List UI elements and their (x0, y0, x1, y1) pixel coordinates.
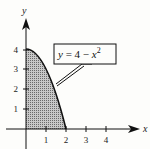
equation-label: y = 4 − x2 (57, 46, 101, 60)
x-tick-label: 2 (64, 135, 69, 145)
x-tick-label: 3 (84, 135, 89, 145)
y-tick-label: 1 (14, 104, 19, 114)
callout-leader (57, 66, 84, 86)
x-tick-label: 4 (104, 135, 109, 145)
x-tick-label: 1 (44, 135, 49, 145)
y-tick-label: 2 (14, 84, 19, 94)
y-tick-label: 4 (14, 45, 19, 55)
y-tick-label: 3 (14, 64, 19, 74)
x-axis-label: x (142, 123, 148, 134)
graph: 1 2 3 4 1 2 3 4 x y y = 4 − x2 (0, 0, 150, 149)
y-axis-label: y (21, 5, 27, 16)
